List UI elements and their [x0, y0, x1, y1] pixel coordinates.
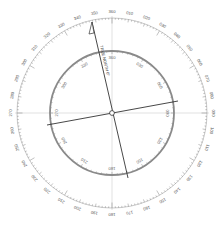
outer-tick: [35, 168, 36, 169]
outer-tick: [70, 197, 71, 198]
outer-tick: [48, 42, 49, 43]
outer-degree-label: 040: [173, 31, 182, 40]
outer-tick: [41, 175, 42, 176]
outer-tick: [39, 172, 41, 174]
outer-tick: [179, 47, 180, 48]
outer-tick: [65, 31, 68, 36]
outer-degree-label: 280: [9, 91, 15, 99]
outer-tick: [198, 144, 201, 145]
outer-tick: [31, 63, 32, 64]
outer-degree-label: 100: [209, 127, 215, 135]
outer-tick: [194, 157, 195, 158]
outer-tick: [73, 26, 74, 27]
outer-degree-label: 260: [9, 126, 15, 134]
outer-degree-label: 070: [204, 74, 211, 83]
outer-degree-label: 320: [43, 31, 52, 40]
outer-degree-label: 220: [42, 186, 51, 195]
inner-degree-label: 360: [109, 55, 117, 60]
outer-tick: [167, 189, 168, 190]
outer-degree-label: 110: [204, 144, 211, 153]
outer-tick: [199, 77, 200, 78]
outer-degree-label: 310: [30, 43, 39, 52]
outer-tick: [161, 192, 162, 193]
outer-tick: [56, 189, 57, 190]
outer-degree-label: 330: [57, 21, 66, 29]
outer-tick: [25, 74, 26, 75]
outer-tick: [51, 183, 53, 185]
outer-tick: [54, 38, 55, 39]
outer-tick: [147, 25, 148, 26]
outer-tick: [59, 34, 60, 35]
outer-degree-label: 050: [186, 44, 195, 53]
outer-tick: [24, 77, 25, 78]
outer-tick: [197, 151, 198, 152]
outer-tick: [181, 49, 182, 50]
outer-tick: [186, 171, 187, 172]
outer-tick: [167, 36, 168, 37]
outer-tick: [33, 60, 34, 61]
outer-tick: [39, 52, 41, 54]
outer-tick: [44, 47, 45, 48]
outer-tick: [41, 49, 42, 50]
outer-tick: [44, 178, 45, 179]
outer-tick: [170, 38, 171, 39]
outer-tick: [62, 32, 63, 33]
outer-degree-label: 120: [196, 159, 204, 168]
outer-tick: [194, 68, 195, 69]
outer-degree-label: 230: [30, 173, 39, 182]
outer-tick: [186, 55, 187, 56]
outer-tick: [65, 191, 68, 196]
outer-degree-label: 350: [91, 10, 99, 16]
outer-tick: [196, 154, 197, 155]
outer-degree-label: 160: [142, 205, 151, 212]
outer-tick: [171, 183, 173, 185]
outer-tick: [37, 171, 38, 172]
inner-degree-label: 060: [156, 81, 164, 90]
outer-tick: [46, 180, 47, 181]
inner-degree-label: 240: [60, 136, 68, 145]
outer-tick: [59, 190, 60, 191]
outer-tick: [128, 204, 129, 207]
outer-degree-label: 010: [126, 10, 134, 16]
outer-tick: [190, 66, 195, 69]
outer-tick: [174, 182, 175, 183]
outer-tick: [18, 129, 21, 130]
outer-degree-label: 290: [13, 74, 20, 83]
outer-tick: [67, 195, 68, 196]
outer-degree-label: 240: [20, 159, 28, 168]
outer-tick: [198, 81, 201, 82]
outer-degree-label: 140: [172, 187, 181, 196]
outer-tick: [156, 195, 157, 196]
outer-tick: [161, 32, 162, 33]
outer-tick: [18, 97, 21, 98]
outer-degree-label: 270: [8, 109, 13, 117]
outer-degree-label: 360: [109, 9, 117, 14]
outer-tick: [96, 204, 97, 207]
outer-tick: [62, 192, 63, 193]
outer-tick: [177, 45, 178, 46]
outer-tick: [76, 200, 77, 201]
outer-tick: [51, 40, 53, 42]
outer-tick: [164, 190, 165, 191]
outer-degree-label: 030: [158, 21, 167, 29]
outer-tick: [80, 24, 81, 27]
outer-tick: [190, 158, 195, 161]
inner-degree-label: 270: [54, 109, 59, 117]
outer-tick: [30, 66, 35, 69]
arrowhead-icon: [89, 22, 94, 34]
outer-degree-label: 300: [20, 57, 28, 66]
outer-tick: [27, 154, 28, 155]
outer-degree-label: 020: [143, 14, 152, 21]
outer-tick: [56, 36, 57, 37]
inner-degree-label: 330: [80, 61, 89, 69]
outer-tick: [203, 129, 206, 130]
outer-tick: [182, 172, 184, 174]
outer-degree-label: 190: [90, 210, 98, 216]
outer-degree-label: 340: [73, 14, 82, 21]
outer-degree-label: 250: [13, 143, 20, 152]
inner-degree-label: 150: [135, 157, 144, 165]
outer-tick: [196, 71, 197, 72]
outer-tick: [191, 63, 192, 64]
outer-tick: [33, 165, 34, 166]
outer-tick: [188, 57, 189, 58]
